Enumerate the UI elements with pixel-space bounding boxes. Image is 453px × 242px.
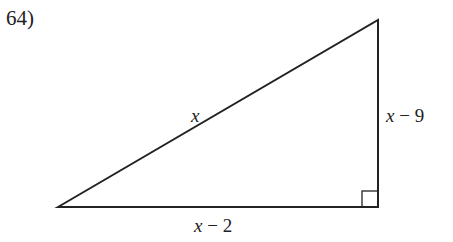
- vertical-leg-label: x − 9: [385, 105, 424, 126]
- triangle: [58, 20, 378, 207]
- hypotenuse-label: x: [190, 105, 200, 126]
- right-triangle-diagram: x x − 9 x − 2: [0, 0, 453, 242]
- horizontal-leg-label: x − 2: [193, 215, 232, 236]
- right-angle-marker: [362, 191, 378, 207]
